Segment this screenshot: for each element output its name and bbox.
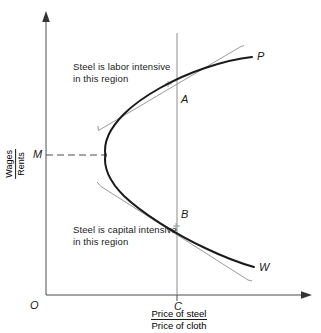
origin-label: O [30, 299, 39, 313]
capital-intensive-line-1: Steel is capital intensive [73, 224, 177, 236]
labor-intensive-line-2: in this region [73, 73, 170, 85]
capital-intensive-line-2: in this region [73, 236, 177, 248]
point-label-b: B [181, 208, 188, 222]
labor-intensive-line-1: Steel is labor intensive [73, 61, 170, 73]
figure-container: O M C A B P W Steel is labor intensive i… [0, 0, 321, 333]
curve-endpoint-label-w: W [259, 261, 269, 275]
x-axis-fraction: Price of steel Price of cloth [151, 308, 208, 332]
y-axis-denominator: Rents [16, 149, 27, 179]
x-axis [46, 291, 312, 299]
point-label-a: A [181, 93, 188, 107]
x-axis-numerator: Price of steel [151, 308, 208, 320]
y-tick-label-m: M [33, 148, 42, 162]
curve-lower-branch-w [105, 154, 254, 267]
y-axis-fraction: Wages Rents [4, 149, 27, 179]
capital-intensive-annotation: Steel is capital intensive in this regio… [73, 224, 177, 248]
curve-endpoint-label-p: P [257, 50, 264, 64]
y-axis-numerator: Wages [4, 149, 16, 179]
x-axis-denominator: Price of cloth [151, 320, 208, 331]
y-axis [42, 11, 50, 295]
labor-intensive-annotation: Steel is labor intensive in this region [73, 61, 170, 85]
chart-canvas [0, 0, 321, 333]
x-axis-label: Price of steel Price of cloth [133, 308, 225, 333]
y-axis-label: Wages Rents [4, 136, 28, 192]
